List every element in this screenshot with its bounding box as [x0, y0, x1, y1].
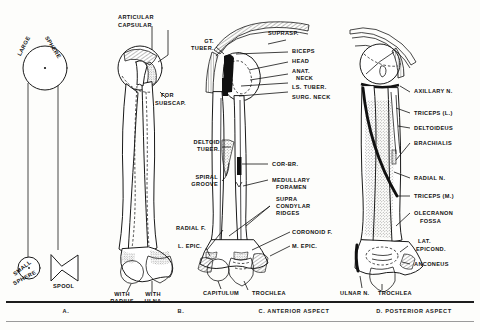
label-anconeus: ANCONEUS	[414, 261, 449, 268]
anatomical-figure: LARGE SPHERE SMALL SPHERE SPOOL ARTICULA…	[0, 0, 480, 330]
label-axillary-nerve: AXILLARY N.	[414, 88, 453, 95]
caption-a: A.	[6, 308, 126, 314]
label-triceps-lateral: TRICEPS (L.)	[414, 110, 453, 117]
label-medullary-foramen-2: FORAMEN	[276, 184, 307, 191]
label-lateral-epicondyle-c: L. EPIC.	[168, 243, 202, 250]
label-articular: ARTICULAR	[118, 14, 154, 21]
caption-rule-top	[6, 301, 474, 303]
label-olecranon-fossa-2: FOSSA	[420, 218, 441, 225]
label-lateral-epicondyle-d-2: EPICOND.	[416, 246, 446, 253]
caption-b: B.	[126, 308, 236, 314]
label-radial-fossa: RADIAL F.	[170, 225, 206, 232]
caption-c: C. ANTERIOR ASPECT	[234, 308, 354, 314]
panel-b-artwork	[118, 26, 173, 292]
figure-artwork	[0, 0, 480, 330]
label-supracondylar-ridges-3: RIDGES	[276, 210, 300, 217]
label-capitulum: CAPITULUM	[194, 290, 248, 297]
label-for-subscap-2: SUBSCAP.	[155, 100, 186, 107]
label-spool: SPOOL	[53, 283, 74, 290]
label-radial-nerve: RADIAL N.	[414, 175, 445, 182]
label-deltoideus: DELTOIDEUS	[414, 125, 453, 132]
panel-a-artwork	[18, 46, 78, 281]
label-trochlea-c: TROCHLEA	[244, 290, 294, 297]
label-trochlea-d: TROCHLEA	[378, 290, 412, 297]
label-gt-tuber-2: TUBER.	[182, 45, 214, 52]
label-head: HEAD	[292, 58, 309, 65]
label-medial-epicondyle: M. EPIC.	[292, 243, 317, 250]
panel-d-artwork	[350, 28, 423, 292]
label-for-subscap-1: FOR	[161, 92, 174, 99]
label-ulnar-nerve: ULNAR N.	[340, 290, 370, 297]
caption-rule-bottom	[6, 321, 474, 322]
label-spiral-groove-2: GROOVE	[176, 181, 218, 188]
label-coracobrachialis: COR-BR.	[272, 161, 298, 168]
caption-band: A. B. C. ANTERIOR ASPECT D. POSTERIOR AS…	[6, 301, 474, 325]
label-coronoid-fossa: CORONOID F.	[292, 229, 333, 236]
label-brachialis: BRACHIALIS	[414, 140, 452, 147]
caption-d: D. POSTERIOR ASPECT	[354, 308, 474, 314]
label-anat-neck-2: NECK	[296, 75, 313, 82]
label-lateral-epicondyle-d-1: LAT.	[418, 238, 431, 245]
label-triceps-medial: TRICEPS (M.)	[414, 193, 454, 200]
label-surgical-neck: SURG. NECK	[292, 94, 331, 101]
label-ls-tuber: LS. TUBER.	[292, 84, 327, 91]
label-olecranon-fossa-1: OLECRANON	[414, 210, 453, 217]
label-supraspinatus: SUPRASP.	[268, 30, 299, 37]
label-biceps: BICEPS	[292, 48, 315, 55]
label-deltoid-tuber-2: TUBER.	[176, 146, 220, 153]
label-capsular: CAPSULAR	[118, 22, 152, 29]
